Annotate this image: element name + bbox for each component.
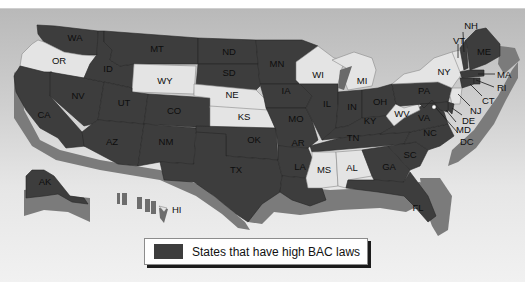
label-OH: OH (373, 96, 387, 107)
label-TN: TN (347, 132, 360, 143)
label-CA: CA (37, 109, 51, 120)
label-NE: NE (225, 89, 238, 100)
label-MN: MN (270, 58, 285, 69)
label-SD: SD (222, 67, 235, 78)
label-NV: NV (71, 90, 85, 101)
label-VT: VT (453, 35, 465, 46)
label-GA: GA (382, 161, 396, 172)
label-ME: ME (477, 46, 491, 57)
label-ND: ND (222, 46, 236, 57)
state-HI-island-3 (137, 197, 142, 209)
label-WA: WA (68, 32, 84, 43)
label-UT: UT (118, 97, 131, 108)
label-KY: KY (364, 115, 377, 126)
legend-swatch-high-bac (154, 244, 183, 259)
leader-DE (452, 108, 462, 115)
state-NY (392, 52, 462, 88)
label-CO: CO (167, 105, 181, 116)
state-HI-island-4 (145, 199, 150, 212)
state-HI-island-2 (122, 193, 127, 205)
label-MT: MT (150, 43, 164, 54)
label-OR: OR (52, 55, 66, 66)
label-FL: FL (412, 202, 423, 213)
label-AK: AK (39, 176, 52, 187)
label-MS: MS (317, 164, 331, 175)
label-KS: KS (238, 111, 251, 122)
map-legend: States that have high BAC laws (144, 238, 368, 265)
label-WV: WV (394, 108, 410, 119)
label-MA: MA (497, 69, 512, 80)
label-DC: DC (460, 136, 474, 147)
label-OK: OK (247, 134, 261, 145)
label-AZ: AZ (106, 136, 118, 147)
legend-label: States that have high BAC laws (192, 245, 360, 259)
label-ID: ID (103, 63, 113, 74)
label-AR: AR (291, 137, 304, 148)
label-NC: NC (423, 127, 437, 138)
dc-marker (432, 105, 436, 109)
label-CT: CT (482, 95, 495, 106)
state-HI-island-5 (151, 201, 156, 214)
label-SC: SC (403, 149, 416, 160)
label-NM: NM (159, 136, 174, 147)
state-HI-island-1 (117, 193, 120, 204)
bac-laws-map-figure: WA OR CA NV ID MT WY UT CO AZ NM ND SD N… (0, 0, 525, 282)
label-LA: LA (294, 161, 306, 172)
state-DE (448, 102, 454, 114)
label-VA: VA (418, 112, 431, 123)
label-MO: MO (288, 113, 303, 124)
leader-CT (470, 84, 482, 96)
state-CT (460, 78, 474, 88)
label-TX: TX (230, 164, 243, 175)
label-NY: NY (437, 66, 451, 77)
label-MD: MD (456, 124, 471, 135)
label-AL: AL (346, 162, 358, 173)
label-IA: IA (282, 85, 292, 96)
label-WY: WY (157, 75, 173, 86)
label-PA: PA (418, 85, 431, 96)
label-WI: WI (312, 69, 324, 80)
label-HI: HI (172, 204, 182, 215)
label-RI: RI (497, 82, 507, 93)
label-MI: MI (357, 75, 368, 86)
label-IN: IN (347, 101, 357, 112)
label-IL: IL (323, 98, 331, 109)
label-NH: NH (464, 20, 478, 31)
